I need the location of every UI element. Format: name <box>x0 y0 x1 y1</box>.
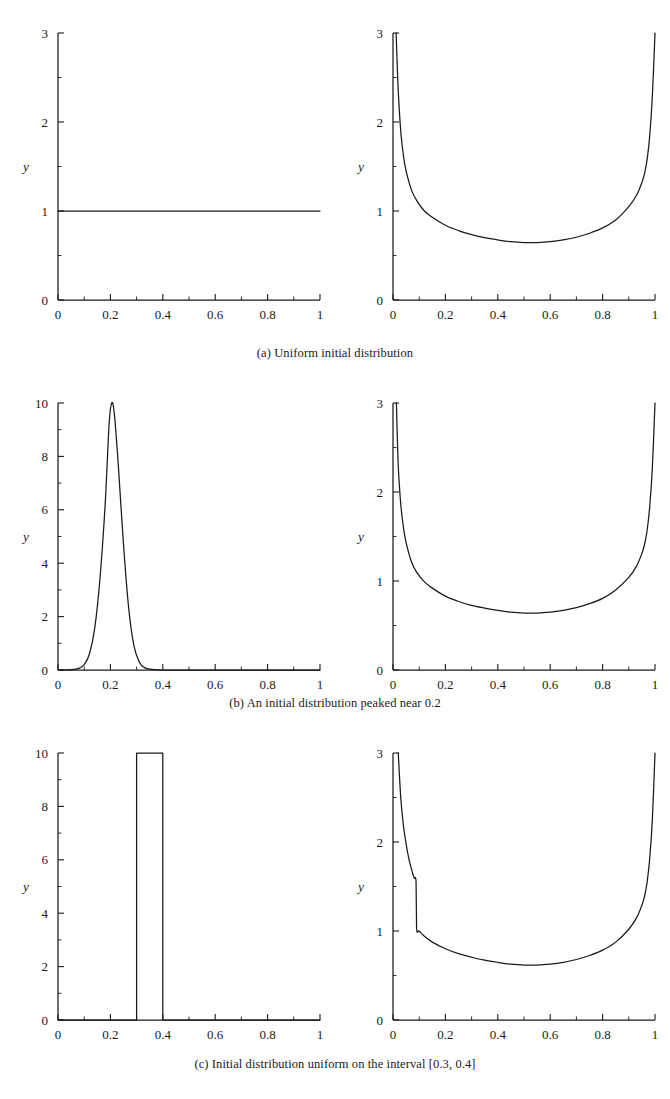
svg-text:y: y <box>21 529 29 544</box>
chart-svg-c-right: 00.20.40.60.810123xy <box>335 720 670 1050</box>
figure-row-c: 00.20.40.60.810246810xy 00.20.40.60.8101… <box>0 720 670 1086</box>
figure-panel-grid: 00.20.40.60.810123xy 00.20.40.60.810123x… <box>0 0 670 1099</box>
svg-text:0: 0 <box>55 307 62 322</box>
svg-text:x: x <box>185 328 192 330</box>
svg-text:0.4: 0.4 <box>490 1027 507 1042</box>
curve-c-left <box>58 753 320 1020</box>
svg-text:0.2: 0.2 <box>102 1027 118 1042</box>
svg-text:y: y <box>21 159 29 174</box>
svg-text:0: 0 <box>55 677 62 692</box>
svg-text:0.6: 0.6 <box>542 677 559 692</box>
chart-svg-c-left: 00.20.40.60.810246810xy <box>0 720 335 1050</box>
svg-text:2: 2 <box>377 485 384 500</box>
svg-text:0: 0 <box>390 307 397 322</box>
svg-text:0: 0 <box>55 1027 62 1042</box>
svg-text:1: 1 <box>377 204 384 219</box>
svg-text:0.8: 0.8 <box>594 1027 610 1042</box>
svg-text:4: 4 <box>42 906 49 921</box>
axes-b-left <box>58 403 320 670</box>
curve-a-right <box>396 33 655 243</box>
svg-text:1: 1 <box>317 677 324 692</box>
svg-text:0.2: 0.2 <box>437 1027 453 1042</box>
labels-a-right: 00.20.40.60.810123xy <box>356 26 658 331</box>
svg-text:0.2: 0.2 <box>102 677 118 692</box>
svg-text:x: x <box>520 328 527 330</box>
svg-text:0.2: 0.2 <box>437 677 453 692</box>
svg-text:6: 6 <box>42 502 49 517</box>
curve-b-left <box>58 402 320 670</box>
svg-text:2: 2 <box>42 115 49 130</box>
svg-text:0.6: 0.6 <box>207 1027 224 1042</box>
svg-text:0.4: 0.4 <box>155 677 172 692</box>
svg-text:0.2: 0.2 <box>437 307 453 322</box>
svg-text:0: 0 <box>390 677 397 692</box>
svg-text:y: y <box>356 159 364 174</box>
svg-text:2: 2 <box>42 609 49 624</box>
figure-row-b: 00.20.40.60.810246810xy 00.20.40.60.8101… <box>0 370 670 736</box>
axes-c-right <box>393 753 655 1020</box>
svg-text:3: 3 <box>377 26 384 41</box>
curve-c-right <box>398 753 655 965</box>
svg-text:8: 8 <box>42 799 49 814</box>
axes-b-right <box>393 403 655 670</box>
axes-a-left <box>58 33 320 300</box>
caption-b: (b) An initial distribution peaked near … <box>0 696 670 711</box>
svg-text:0: 0 <box>377 1013 384 1028</box>
axes-a-right <box>393 33 655 300</box>
labels-b-left: 00.20.40.60.810246810xy <box>21 396 323 701</box>
svg-text:0: 0 <box>42 293 49 308</box>
svg-text:x: x <box>520 1048 527 1050</box>
svg-text:0.8: 0.8 <box>259 1027 275 1042</box>
svg-text:1: 1 <box>652 1027 659 1042</box>
svg-text:1: 1 <box>652 307 659 322</box>
svg-text:0.6: 0.6 <box>542 1027 559 1042</box>
svg-text:0.4: 0.4 <box>490 307 507 322</box>
svg-text:0: 0 <box>390 1027 397 1042</box>
svg-text:0: 0 <box>377 663 384 678</box>
svg-text:8: 8 <box>42 449 49 464</box>
labels-c-right: 00.20.40.60.810123xy <box>356 746 658 1051</box>
svg-text:3: 3 <box>377 746 384 761</box>
svg-text:0.6: 0.6 <box>542 307 559 322</box>
chart-panel-b-right: 00.20.40.60.810123xy <box>335 370 670 700</box>
axes-c-left <box>58 753 320 1020</box>
svg-text:y: y <box>21 879 29 894</box>
svg-text:0.6: 0.6 <box>207 307 224 322</box>
chart-panel-a-right: 00.20.40.60.810123xy <box>335 0 670 330</box>
svg-text:4: 4 <box>42 556 49 571</box>
chart-panel-c-left: 00.20.40.60.810246810xy <box>0 720 335 1050</box>
labels-a-left: 00.20.40.60.810123xy <box>21 26 323 331</box>
svg-text:3: 3 <box>42 26 49 41</box>
svg-text:1: 1 <box>377 924 384 939</box>
curve-b-right <box>396 403 655 613</box>
svg-text:3: 3 <box>377 396 384 411</box>
caption-a: (a) Uniform initial distribution <box>0 346 670 361</box>
svg-text:2: 2 <box>377 835 384 850</box>
svg-text:0: 0 <box>42 1013 49 1028</box>
svg-text:6: 6 <box>42 852 49 867</box>
svg-text:0.8: 0.8 <box>259 307 275 322</box>
labels-b-right: 00.20.40.60.810123xy <box>356 396 658 701</box>
svg-text:y: y <box>356 529 364 544</box>
svg-text:0.8: 0.8 <box>259 677 275 692</box>
svg-text:2: 2 <box>377 115 384 130</box>
svg-text:0.6: 0.6 <box>207 677 224 692</box>
svg-text:0: 0 <box>377 293 384 308</box>
svg-text:x: x <box>185 1048 192 1050</box>
labels-c-left: 00.20.40.60.810246810xy <box>21 746 323 1051</box>
svg-text:0.8: 0.8 <box>594 307 610 322</box>
svg-text:1: 1 <box>317 1027 324 1042</box>
svg-text:0.4: 0.4 <box>155 1027 172 1042</box>
svg-text:0.4: 0.4 <box>490 677 507 692</box>
chart-panel-c-right: 00.20.40.60.810123xy <box>335 720 670 1050</box>
svg-text:1: 1 <box>652 677 659 692</box>
svg-text:1: 1 <box>317 307 324 322</box>
svg-text:0: 0 <box>42 663 49 678</box>
svg-text:2: 2 <box>42 959 49 974</box>
svg-text:1: 1 <box>42 204 49 219</box>
svg-text:0.4: 0.4 <box>155 307 172 322</box>
caption-c: (c) Initial distribution uniform on the … <box>0 1057 670 1072</box>
svg-text:10: 10 <box>35 746 48 761</box>
chart-svg-b-right: 00.20.40.60.810123xy <box>335 370 670 700</box>
svg-text:0.2: 0.2 <box>102 307 118 322</box>
